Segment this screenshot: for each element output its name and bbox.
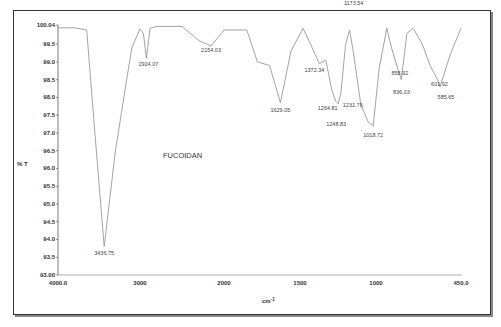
y-tick-label: 97.0 — [43, 130, 55, 136]
y-tick-label: 94.0 — [43, 236, 55, 242]
x-axis-label: cm-1 — [262, 297, 275, 305]
peak-label: 2154.03 — [201, 47, 221, 53]
peak-label: 1248.83 — [326, 121, 346, 127]
peak-label: 1264.81 — [318, 105, 338, 111]
ftir-spectrum-chart: 100.0499.599.098.598.097.597.096.596.095… — [0, 0, 501, 327]
peak-label: 1231.76 — [343, 102, 363, 108]
peak-label: 1372.34 — [304, 67, 324, 73]
x-axis: 4000.03000200015001000450.0 — [49, 275, 469, 286]
peak-label: 1173.54 — [344, 0, 363, 6]
peak-label: 858.92 — [391, 70, 408, 76]
x-tick-label: 450.0 — [453, 280, 469, 286]
x-tick-label: 1000 — [369, 280, 383, 286]
y-tick-label: 95.0 — [43, 201, 55, 207]
x-tick-label: 3000 — [133, 280, 147, 286]
peak-annotations: 3436.752924.072154.031629.051372.341264.… — [94, 0, 454, 256]
chart-title: FUCOIDAN — [163, 151, 202, 160]
y-tick-label: 99.0 — [43, 59, 55, 65]
y-tick-label: 94.5 — [43, 219, 55, 225]
x-tick-label: 4000.0 — [49, 280, 68, 286]
y-axis-label: % T — [17, 161, 28, 167]
peak-label: 585.65 — [438, 94, 455, 100]
x-tick-label: 2000 — [217, 280, 231, 286]
y-axis: 100.0499.599.098.598.097.597.096.596.095… — [37, 22, 58, 278]
x-tick-label: 1500 — [293, 280, 307, 286]
peak-label: 1629.05 — [270, 107, 290, 113]
y-tick-label: 98.0 — [43, 94, 55, 100]
y-tick-label: 100.04 — [37, 22, 56, 28]
y-tick-label: 93.00 — [40, 272, 56, 278]
y-tick-label: 93.5 — [43, 254, 55, 260]
peak-label: 601.92 — [431, 81, 448, 87]
y-tick-label: 97.5 — [43, 112, 55, 118]
peak-label: 836.03 — [393, 89, 410, 95]
y-tick-label: 99.5 — [43, 41, 55, 47]
y-tick-label: 95.5 — [43, 183, 55, 189]
y-tick-label: 98.5 — [43, 77, 55, 83]
y-tick-label: 96.5 — [43, 148, 55, 154]
y-tick-label: 96.0 — [43, 165, 55, 171]
spectrum-line — [58, 26, 461, 246]
peak-label: 2924.07 — [138, 61, 158, 67]
peak-label: 1018.72 — [363, 132, 383, 138]
peak-label: 3436.75 — [94, 250, 114, 256]
